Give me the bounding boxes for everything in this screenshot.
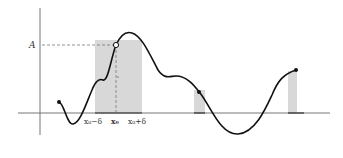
label-A: A [28, 40, 36, 50]
label-x0-minus-delta: x₀−δ [84, 117, 103, 126]
curve-end-point [294, 68, 298, 72]
label-x0: x₀ [111, 117, 119, 126]
label-x0-plus-delta: x₀+δ [128, 117, 147, 126]
neighborhood-shade-3 [288, 71, 297, 113]
function-plot: A x₀−δ x₀ x₀+δ [0, 0, 343, 158]
point-2 [197, 90, 201, 94]
curve-start-point [57, 100, 61, 104]
open-point-x0 [113, 42, 118, 47]
